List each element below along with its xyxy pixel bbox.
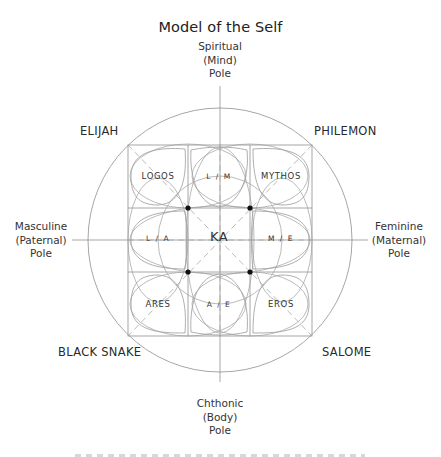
cell-ares: ARES [128,299,188,309]
corner-label-philemon: PHILEMON [314,124,377,138]
cell-a-e: A / E [188,300,250,309]
cell-l-a: L / A [128,234,188,243]
corner-label-salome: SALOME [322,345,371,359]
masculine-pole-label: Masculine (Paternal) Pole [8,220,74,261]
node-dot [185,269,190,274]
cell-logos: LOGOS [128,171,188,181]
node-dot [185,205,190,210]
chthonic-pole-label: Chthonic (Body) Pole [180,397,260,438]
cell-m-e: M / E [250,234,312,243]
node-dot [247,205,252,210]
spiritual-pole-label: Spiritual (Mind) Pole [180,40,260,81]
cell-ka: KA [188,229,250,244]
cell-mythos: MYTHOS [250,171,312,181]
cell-l-m: L / M [188,172,250,181]
node-dot [247,269,252,274]
corner-label-black-snake: BLACK SNAKE [58,345,141,359]
feminine-pole-label: Feminine (Maternal) Pole [366,220,432,261]
corner-label-elijah: ELIJAH [80,124,119,138]
cell-eros: EROS [250,299,312,309]
